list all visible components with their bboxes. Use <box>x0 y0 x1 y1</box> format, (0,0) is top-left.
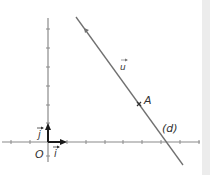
point-a-marker <box>137 102 141 106</box>
svg-text:i: i <box>54 148 57 159</box>
origin-label: O <box>35 148 44 161</box>
svg-text:u: u <box>120 62 126 72</box>
coordinate-diagram: O i j u A (d) <box>0 0 210 175</box>
line-d-label: (d) <box>162 122 178 135</box>
direction-vector-u-label: u <box>120 59 128 73</box>
unit-vector-j <box>45 123 51 142</box>
svg-text:j: j <box>36 129 41 140</box>
unit-vector-i <box>48 139 67 145</box>
unit-j-label: j <box>36 127 44 141</box>
unit-i-label: i <box>53 146 60 160</box>
line-d <box>76 17 183 165</box>
point-a-label: A <box>143 94 152 107</box>
